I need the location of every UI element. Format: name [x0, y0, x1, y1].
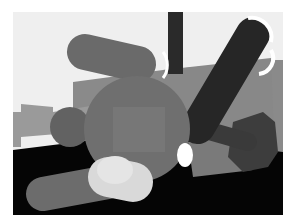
left-ball [50, 107, 90, 147]
upper-capsule [85, 52, 138, 64]
white-capsule-cap [97, 156, 133, 184]
torso-face [113, 107, 165, 152]
pillar [168, 12, 183, 74]
scene-canvas [13, 12, 283, 215]
render-viewport [13, 12, 283, 215]
highlight-bottom [177, 143, 193, 167]
